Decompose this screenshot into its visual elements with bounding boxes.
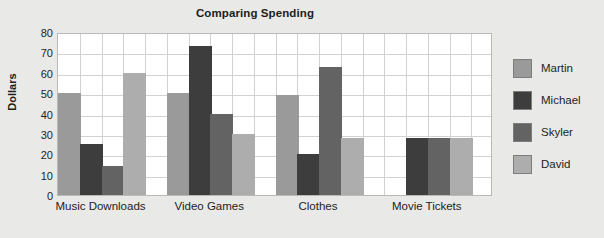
bar: [428, 138, 451, 195]
bar: [102, 166, 125, 195]
legend-item-skyler[interactable]: Skyler: [513, 116, 601, 148]
y-tick-label: 40: [3, 110, 53, 121]
chart-title: Comparing Spending: [0, 7, 510, 19]
bar: [276, 95, 299, 195]
bar: [123, 73, 146, 195]
bar: [80, 144, 103, 195]
legend-swatch-icon: [513, 91, 532, 110]
x-axis-tick-labels: Music DownloadsVideo GamesClothesMovie T…: [57, 200, 492, 220]
legend-swatch-icon: [513, 155, 532, 174]
bar: [450, 138, 473, 195]
legend: MartinMichaelSkylerDavid: [513, 52, 601, 180]
y-tick-label: 80: [3, 28, 53, 39]
y-tick-label: 60: [3, 69, 53, 80]
bar: [406, 138, 429, 195]
bar: [232, 134, 255, 195]
y-tick-label: 20: [3, 150, 53, 161]
legend-swatch-icon: [513, 123, 532, 142]
legend-swatch-icon: [513, 59, 532, 78]
plot-area: [57, 33, 492, 196]
legend-item-michael[interactable]: Michael: [513, 84, 601, 116]
y-axis-tick-labels: 80706050403020100: [0, 33, 53, 196]
x-tick-label: Music Downloads: [41, 200, 161, 212]
bar: [297, 154, 320, 195]
legend-item-david[interactable]: David: [513, 148, 601, 180]
bar-chart: Comparing Spending Dollars 8070605040302…: [0, 0, 604, 238]
bar: [189, 46, 212, 195]
bar: [167, 93, 190, 195]
x-tick-label: Movie Tickets: [367, 200, 487, 212]
legend-label: Michael: [541, 94, 581, 106]
gridline-vertical: [384, 34, 385, 195]
y-tick-label: 70: [3, 48, 53, 59]
bar: [319, 67, 342, 195]
bar: [210, 114, 233, 196]
legend-label: David: [541, 158, 570, 170]
y-tick-label: 50: [3, 89, 53, 100]
legend-label: Skyler: [541, 126, 573, 138]
x-tick-label: Clothes: [258, 200, 378, 212]
bar: [341, 138, 364, 195]
legend-item-martin[interactable]: Martin: [513, 52, 601, 84]
bar: [58, 93, 81, 195]
legend-label: Martin: [541, 62, 573, 74]
x-tick-label: Video Games: [149, 200, 269, 212]
y-tick-label: 10: [3, 171, 53, 182]
y-tick-label: 30: [3, 130, 53, 141]
